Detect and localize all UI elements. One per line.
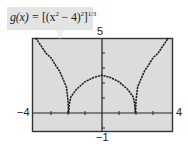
callout-pointer: [56, 30, 64, 39]
x-max-label: 4: [176, 106, 182, 118]
x-min-label: −4: [17, 106, 30, 118]
y-min-label: −1: [96, 131, 109, 143]
y-max-label: 5: [97, 25, 103, 37]
graph-canvas: [0, 0, 188, 144]
